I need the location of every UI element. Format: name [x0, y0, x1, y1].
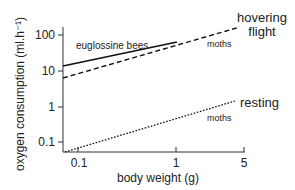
x-axis-title: body weight (g): [117, 171, 199, 185]
x-tick-label-0.1: 0.1: [71, 156, 88, 170]
label-flight: flight: [248, 24, 276, 39]
label-hovering: hovering: [237, 10, 287, 25]
x-tick-label-1: 1: [173, 156, 180, 170]
x-tick-label-5: 5: [241, 156, 248, 170]
x-ticks: [78, 147, 244, 152]
y-axis-title: oxygen consumption (ml.h⁻¹): [13, 17, 27, 171]
y-tick-label-1: 1: [48, 100, 55, 114]
label-resting: resting: [240, 95, 279, 110]
label-moths-hovering: moths: [207, 39, 232, 49]
y-ticks: [58, 35, 63, 142]
series-moths-hovering: [63, 27, 240, 78]
y-tick-label-0.1: 0.1: [38, 135, 55, 149]
y-tick-label-100: 100: [35, 28, 55, 42]
label-euglossine-bees: euglossine bees: [76, 40, 148, 51]
y-tick-label-10: 10: [42, 64, 56, 78]
label-moths-resting: moths: [207, 113, 232, 123]
series-moths-resting: [65, 101, 235, 152]
chart-svg: 100 10 1 0.1 0.1 1 5 body weight (g) oxy…: [0, 0, 295, 190]
chart: 100 10 1 0.1 0.1 1 5 body weight (g) oxy…: [0, 0, 295, 190]
